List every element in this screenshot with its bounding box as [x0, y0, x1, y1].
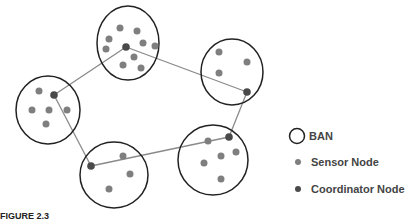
ban-bottom-left — [80, 142, 148, 208]
sensor-node — [106, 186, 113, 193]
legend-ban-label: BAN — [309, 130, 333, 142]
sensor-node — [140, 40, 147, 47]
legend-sensor-icon — [295, 159, 301, 165]
sensor-node — [43, 121, 50, 128]
sensor-node — [216, 70, 223, 77]
coordinator-node — [50, 91, 58, 99]
sensor-node — [216, 49, 223, 56]
ban-bottom-right — [178, 125, 248, 195]
figure-caption: FIGURE 2.3 — [0, 211, 49, 219]
sensor-node — [152, 43, 159, 50]
sensor-node — [233, 149, 240, 156]
ban-network-diagram: BAN Sensor Node Coordinator Node — [0, 0, 408, 219]
ban-right-top — [201, 39, 263, 105]
legend-ban-icon — [290, 129, 305, 144]
sensor-node — [106, 36, 113, 43]
sensor-node — [120, 153, 127, 160]
link-left-top — [54, 47, 126, 95]
link-bottom-left-left — [54, 95, 91, 166]
sensor-node — [201, 160, 208, 167]
coordinator-node — [225, 133, 233, 141]
sensor-node — [127, 171, 134, 178]
ban-left — [16, 76, 80, 144]
ban-top — [97, 6, 159, 80]
legend-sensor-label: Sensor Node — [311, 156, 379, 168]
sensor-node — [218, 153, 225, 160]
sensor-node — [117, 25, 124, 32]
sensor-node — [46, 107, 53, 114]
legend-coordinator-label: Coordinator Node — [311, 183, 405, 195]
legend: BAN Sensor Node Coordinator Node — [290, 129, 405, 196]
ban-boundary — [201, 39, 263, 105]
legend-coordinator-icon — [295, 186, 301, 192]
coordinator-node — [243, 88, 251, 96]
sensor-node — [64, 107, 71, 114]
ban-boundary — [178, 125, 248, 195]
sensor-node — [103, 46, 110, 53]
sensor-node — [218, 176, 225, 183]
coordinator-node — [87, 162, 95, 170]
coordinator-node — [122, 43, 130, 51]
sensor-node — [138, 65, 145, 72]
coordinator-links — [54, 47, 247, 166]
sensor-node — [29, 107, 36, 114]
sensor-node — [244, 59, 251, 66]
sensor-node — [120, 62, 127, 69]
sensor-node — [205, 138, 212, 145]
ban-boundary — [80, 142, 148, 208]
ban-boundary — [97, 6, 159, 80]
sensor-node — [36, 88, 43, 95]
ban-groups — [16, 6, 263, 208]
sensor-node — [134, 28, 141, 35]
sensor-node — [131, 54, 138, 61]
